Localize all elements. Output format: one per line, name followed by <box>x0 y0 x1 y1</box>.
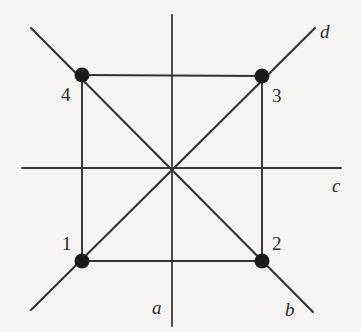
node-label-1: 1 <box>62 234 72 253</box>
node-dot-2[interactable] <box>255 254 270 269</box>
geometry-figure: 1 2 3 4 a b c d <box>0 0 361 332</box>
node-label-2: 2 <box>272 234 282 253</box>
axis-label-a: a <box>152 298 162 317</box>
square-edge-top <box>82 75 262 76</box>
node-dot-4[interactable] <box>75 68 90 83</box>
axis-label-d: d <box>320 22 330 41</box>
node-dot-3[interactable] <box>255 69 270 84</box>
node-dot-1[interactable] <box>75 254 90 269</box>
axis-label-b: b <box>285 300 295 319</box>
axis-label-c: c <box>332 176 340 195</box>
node-label-3: 3 <box>272 86 282 105</box>
figure-canvas <box>0 0 361 332</box>
node-label-4: 4 <box>61 85 71 104</box>
